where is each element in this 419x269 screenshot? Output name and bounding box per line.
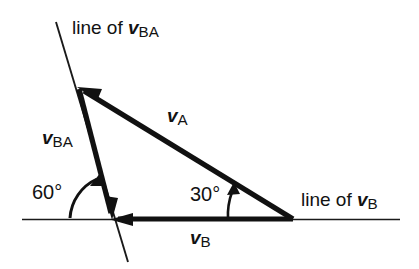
label-va-subscript: A xyxy=(178,111,188,128)
label-line-of-vba: line of vBA xyxy=(72,18,159,40)
vector-vba-arrowhead xyxy=(105,196,118,220)
label-angle-30: 30° xyxy=(190,184,220,204)
label-vb-symbol: v xyxy=(190,227,201,248)
label-va: vA xyxy=(167,106,188,128)
label-line-of-vba-prefix: line of xyxy=(72,17,128,38)
label-vb-subscript: B xyxy=(201,233,211,250)
label-line-of-vb: line of vB xyxy=(301,190,378,212)
label-line-of-vb-prefix: line of xyxy=(301,189,357,210)
angle-30-arc xyxy=(228,192,232,219)
label-va-symbol: v xyxy=(167,105,178,126)
label-angle-60: 60° xyxy=(32,182,62,202)
label-vba-subscript: BA xyxy=(53,133,73,150)
label-line-of-vba-subscript: BA xyxy=(139,23,159,40)
label-line-of-vb-symbol: v xyxy=(357,189,368,210)
label-vb: vB xyxy=(190,228,211,250)
label-line-of-vb-subscript: B xyxy=(368,195,378,212)
label-vba-symbol: v xyxy=(42,127,53,148)
label-vba: vBA xyxy=(42,128,73,150)
label-line-of-vba-symbol: v xyxy=(128,17,139,38)
vector-diagram: line of vBA vBA vA vB line of vB 60° 30° xyxy=(0,0,419,269)
